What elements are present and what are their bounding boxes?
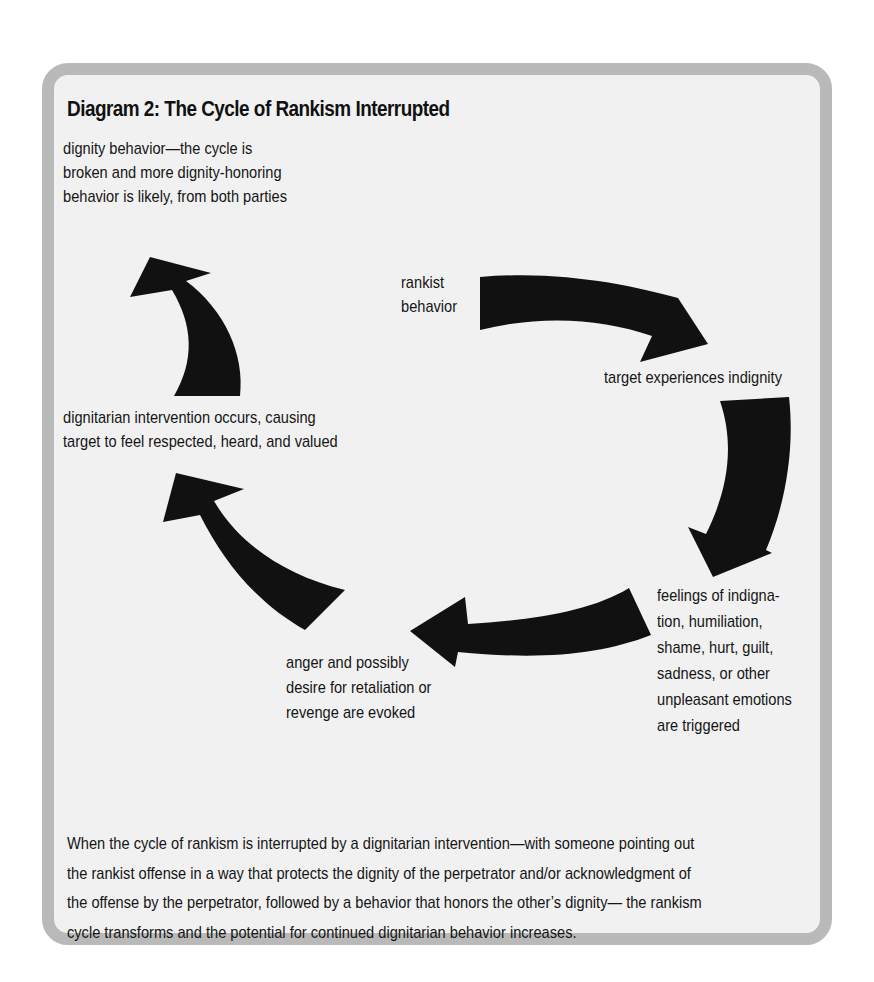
node-line: target to feel respected, heard, and val…: [63, 430, 338, 454]
node-line: rankist: [401, 271, 457, 295]
caption-line: When the cycle of rankism is interrupted…: [67, 829, 702, 859]
node-line: are triggered: [657, 713, 792, 739]
node-line: sadness, or other: [657, 661, 792, 687]
node-dignitarian-intervention: dignitarian intervention occurs, causing…: [63, 406, 338, 454]
arrow-left-curved-icon: [410, 588, 651, 667]
node-line: unpleasant emotions: [657, 687, 792, 713]
node-line: broken and more dignity-honoring: [63, 161, 287, 185]
node-line: desire for retaliation or: [286, 675, 431, 700]
node-anger-evoked: anger and possibly desire for retaliatio…: [286, 650, 431, 725]
node-feelings-triggered: feelings of indigna- tion, humiliation, …: [657, 583, 792, 739]
node-line: dignity behavior—the cycle is: [63, 137, 287, 161]
node-line: shame, hurt, guilt,: [657, 635, 792, 661]
node-line: target experiences indignity: [604, 366, 782, 390]
node-line: feelings of indigna-: [657, 583, 792, 609]
arrow-up-curved-icon: [130, 257, 241, 396]
node-line: anger and possibly: [286, 650, 431, 675]
node-target-experiences-indignity: target experiences indignity: [604, 366, 782, 390]
node-rankist-behavior: rankist behavior: [401, 271, 457, 319]
caption-line: cycle transforms and the potential for c…: [67, 918, 702, 948]
node-line: dignitarian intervention occurs, causing: [63, 406, 338, 430]
caption-line: the rankist offense in a way that protec…: [67, 859, 702, 889]
node-line: revenge are evoked: [286, 700, 431, 725]
arrow-up-left-curved-icon: [163, 473, 345, 630]
arrow-down-curved-icon: [688, 397, 791, 577]
caption-line: the offense by the perpetrator, followed…: [67, 888, 702, 918]
node-line: tion, humiliation,: [657, 609, 792, 635]
arrow-right-curved-icon: [480, 275, 708, 362]
node-line: behavior is likely, from both parties: [63, 185, 287, 209]
node-line: behavior: [401, 295, 457, 319]
diagram-caption: When the cycle of rankism is interrupted…: [67, 829, 702, 947]
node-dignity-behavior: dignity behavior—the cycle is broken and…: [63, 137, 287, 209]
